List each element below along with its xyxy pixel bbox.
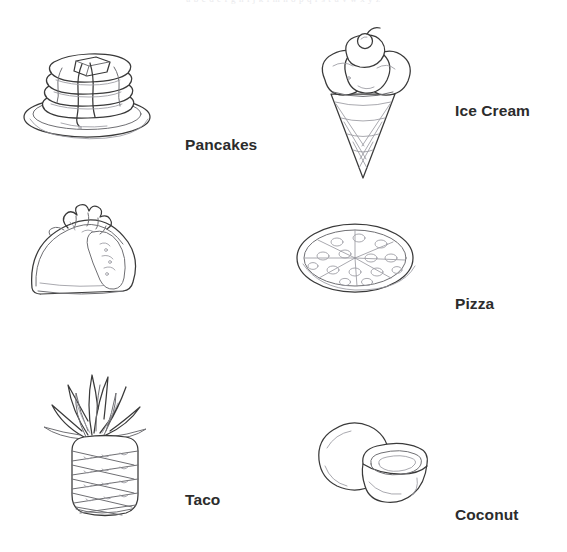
taco-illustration	[18, 198, 148, 308]
pizza-illustration	[293, 214, 423, 304]
ice-cream-cone-illustration	[303, 26, 423, 196]
label-coconut: Coconut	[455, 507, 519, 523]
label-taco: Taco	[185, 492, 220, 508]
pineapple-illustration	[38, 339, 158, 519]
item-coconut[interactable]: Coconut	[283, 404, 567, 534]
item-pizza[interactable]: Pizza	[283, 200, 567, 320]
item-ice-cream[interactable]: Ice Cream	[283, 22, 567, 192]
coconut-illustration	[305, 412, 435, 512]
item-pancakes[interactable]: Pancakes	[0, 34, 170, 154]
item-pineapple[interactable]: Pineapple	[0, 335, 170, 535]
label-pancakes: Pancakes	[185, 137, 257, 153]
label-pizza: Pizza	[455, 296, 494, 312]
label-ice-cream: Ice Cream	[455, 103, 530, 119]
pancakes-illustration	[14, 40, 164, 150]
food-vocabulary-sheet: a b c d e f g h i j k l m n o p q r s t …	[0, 0, 567, 552]
item-taco[interactable]: Taco	[0, 196, 170, 316]
cut-off-header-text: a b c d e f g h i j k l m n o p q r s t …	[0, 0, 567, 4]
